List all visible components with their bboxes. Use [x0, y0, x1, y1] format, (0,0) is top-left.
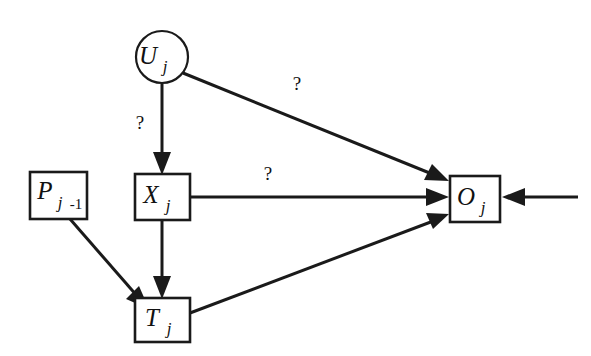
- edge-u-to-o-line: [183, 73, 437, 176]
- node-p-subscript: j: [56, 193, 63, 212]
- edge-u-to-o-arrowhead: [424, 164, 449, 181]
- node-t[interactable]: T j: [135, 298, 190, 342]
- node-u-symbol: U: [139, 42, 159, 69]
- node-x-subscript: j: [164, 196, 171, 215]
- edge-p-to-t: [70, 219, 149, 309]
- diagram-canvas: U j P j -1 X j T j O j ? ?: [0, 0, 591, 356]
- edge-t-to-o: [190, 213, 449, 313]
- node-x[interactable]: X j: [135, 174, 190, 220]
- node-x-symbol: X: [142, 181, 160, 208]
- edge-x-to-t: [153, 220, 171, 299]
- edge-external-to-o: [502, 188, 578, 206]
- edge-u-to-x-arrowhead: [153, 152, 171, 175]
- edge-x-to-o: [190, 188, 449, 206]
- influence-diagram: U j P j -1 X j T j O j ? ?: [0, 0, 591, 356]
- edge-label-x-to-o: ?: [264, 163, 272, 184]
- node-o[interactable]: O j: [450, 176, 500, 222]
- edge-p-to-t-line: [70, 219, 138, 297]
- edge-u-to-o: [183, 73, 449, 181]
- node-o-subscript: j: [479, 198, 486, 217]
- node-p-symbol: P: [36, 177, 52, 204]
- edge-x-to-o-arrowhead: [426, 188, 449, 206]
- edge-external-to-o-arrowhead: [502, 188, 525, 206]
- node-p-subscript-extra: -1: [70, 196, 83, 212]
- node-u-subscript: j: [161, 57, 168, 76]
- node-o-symbol: O: [457, 183, 475, 210]
- edge-label-u-to-x: ?: [136, 112, 144, 133]
- node-u[interactable]: U j: [136, 31, 188, 83]
- node-t-box: [135, 298, 190, 342]
- edge-u-to-x: [153, 84, 171, 175]
- node-p[interactable]: P j -1: [30, 172, 87, 219]
- node-t-symbol: T: [145, 304, 161, 331]
- edge-label-u-to-o: ?: [293, 73, 301, 94]
- node-t-subscript: j: [165, 319, 172, 338]
- edge-x-to-t-arrowhead: [153, 276, 171, 299]
- edge-t-to-o-line: [190, 220, 436, 313]
